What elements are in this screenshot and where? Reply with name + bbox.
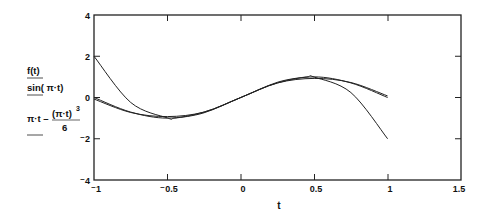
x-ticks <box>168 15 389 180</box>
x-tick-label: ⁻1 <box>91 184 101 194</box>
y-tick-labels: 4 2 0 ⁻2 ⁻4 <box>80 11 90 186</box>
x-tick-label: ⁻0.5 <box>160 184 178 194</box>
plot-curves <box>94 56 388 139</box>
x-tick-label: 0.5 <box>310 184 323 194</box>
y-tick-label: ⁻2 <box>80 134 90 144</box>
y-tick-label: 2 <box>85 52 90 62</box>
y-tick-label: 0 <box>85 93 90 103</box>
x-tick-label: 1.5 <box>453 184 466 194</box>
plot-frame <box>94 15 461 180</box>
y-tick-label: 4 <box>85 11 90 21</box>
y-tick-label: ⁻4 <box>80 176 90 186</box>
chart-canvas: ⁻1 ⁻0.5 0 0.5 1 1.5 t 4 2 0 ⁻2 ⁻4 f(t) s… <box>0 0 484 215</box>
y-ticks <box>94 56 461 139</box>
taylor-curve <box>94 78 388 116</box>
legend-taylor-left: π·t – <box>27 113 49 124</box>
legend-taylor-exponent: 3 <box>76 105 80 112</box>
legend-sin: sin( π·t) <box>27 82 63 93</box>
legend-f: f(t) <box>27 65 40 76</box>
legend-taylor-denominator: 6 <box>62 122 67 133</box>
legend-taylor-numerator: (π·t) <box>52 108 72 119</box>
legend: f(t) sin( π·t) π·t – (π·t) 3 6 <box>27 65 80 135</box>
x-tick-labels: ⁻1 ⁻0.5 0 0.5 1 1.5 <box>91 184 465 194</box>
x-tick-label: 1 <box>387 184 392 194</box>
x-axis-title: t <box>277 200 281 211</box>
x-tick-label: 0 <box>240 184 245 194</box>
